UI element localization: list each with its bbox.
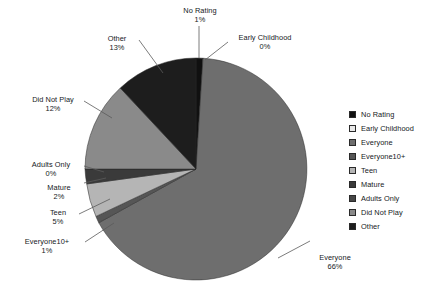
callout-mature-label: Mature	[36, 183, 82, 192]
legend-swatch-everyone10plus	[349, 153, 356, 160]
callout-everyone10plus-value: 1%	[13, 246, 81, 255]
legend-swatch-did-not-play	[349, 209, 356, 216]
legend-item-no-rating[interactable]: No Rating	[349, 108, 439, 122]
legend-item-other[interactable]: Other	[349, 219, 439, 233]
legend-label-other: Other	[361, 222, 380, 231]
legend-swatch-mature	[349, 181, 356, 188]
legend-label-did-not-play: Did Not Play	[361, 208, 403, 217]
legend-swatch-teen	[349, 167, 356, 174]
callout-everyone10plus: Everyone10+ 1%	[13, 237, 81, 255]
chart-legend: No Rating Early Childhood Everyone Every…	[349, 108, 439, 233]
callout-early-childhood: Early Childhood 0%	[228, 33, 302, 51]
legend-label-everyone10plus: Everyone10+	[361, 152, 405, 161]
callout-adults-only-value: 0%	[20, 169, 82, 178]
leader-line-everyone	[278, 241, 310, 258]
callout-other-label: Other	[96, 34, 138, 43]
callout-did-not-play-label: Did Not Play	[24, 95, 82, 104]
legend-item-early-childhood[interactable]: Early Childhood	[349, 122, 439, 136]
callout-no-rating: No Rating 1%	[172, 6, 228, 24]
legend-label-no-rating: No Rating	[361, 110, 394, 119]
callout-no-rating-value: 1%	[172, 15, 228, 24]
callout-adults-only: Adults Only 0%	[20, 160, 82, 178]
pie-slices	[85, 58, 307, 280]
callout-teen-label: Teen	[40, 208, 76, 217]
legend-label-teen: Teen	[361, 166, 377, 175]
callout-everyone-label: Everyone	[310, 253, 360, 262]
legend-item-mature[interactable]: Mature	[349, 177, 439, 191]
legend-item-adults-only[interactable]: Adults Only	[349, 191, 439, 205]
callout-mature-value: 2%	[36, 192, 82, 201]
legend-item-did-not-play[interactable]: Did Not Play	[349, 205, 439, 219]
legend-item-everyone[interactable]: Everyone	[349, 136, 439, 150]
pie-chart: No Rating 1% Early Childhood 0% Other 13…	[0, 0, 441, 298]
legend-item-everyone10plus[interactable]: Everyone10+	[349, 150, 439, 164]
legend-item-teen[interactable]: Teen	[349, 164, 439, 178]
legend-swatch-early-childhood	[349, 125, 356, 132]
legend-swatch-other	[349, 223, 356, 230]
callout-other: Other 13%	[96, 34, 138, 52]
legend-swatch-no-rating	[349, 111, 356, 118]
leader-line-early-childhood	[205, 42, 228, 60]
callout-no-rating-label: No Rating	[172, 6, 228, 15]
legend-swatch-adults-only	[349, 195, 356, 202]
callout-everyone: Everyone 66%	[310, 253, 360, 271]
callout-teen-value: 5%	[40, 217, 76, 226]
callout-other-value: 13%	[96, 43, 138, 52]
legend-label-adults-only: Adults Only	[361, 194, 399, 203]
callout-everyone10plus-label: Everyone10+	[13, 237, 81, 246]
callout-mature: Mature 2%	[36, 183, 82, 201]
callout-everyone-value: 66%	[310, 262, 360, 271]
legend-label-early-childhood: Early Childhood	[361, 124, 414, 133]
callout-early-childhood-value: 0%	[228, 42, 302, 51]
legend-label-mature: Mature	[361, 180, 384, 189]
callout-did-not-play-value: 12%	[24, 104, 82, 113]
legend-swatch-everyone	[349, 139, 356, 146]
callout-early-childhood-label: Early Childhood	[228, 33, 302, 42]
callout-adults-only-label: Adults Only	[20, 160, 82, 169]
callout-teen: Teen 5%	[40, 208, 76, 226]
callout-did-not-play: Did Not Play 12%	[24, 95, 82, 113]
legend-label-everyone: Everyone	[361, 138, 393, 147]
